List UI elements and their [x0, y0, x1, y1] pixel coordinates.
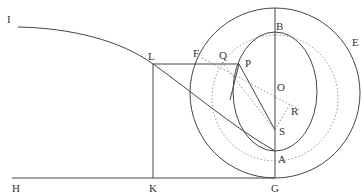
label-E: E — [352, 37, 359, 48]
curve-IA — [18, 27, 275, 151]
line-PS — [239, 64, 275, 130]
diagram-canvas — [0, 0, 364, 196]
label-R: R — [291, 106, 298, 117]
label-I: I — [7, 14, 11, 25]
label-L: L — [148, 51, 155, 62]
label-K: K — [149, 183, 157, 194]
label-F: F — [193, 48, 199, 59]
label-P: P — [245, 58, 251, 69]
label-Q: Q — [219, 50, 227, 61]
label-O: O — [277, 82, 285, 93]
label-A: A — [278, 154, 286, 165]
geometry-diagram: I L F Q P B E O R S A H K G — [0, 0, 364, 196]
label-H: H — [12, 183, 20, 194]
line-Q-S — [222, 62, 275, 130]
label-B: B — [276, 21, 283, 32]
label-G: G — [271, 183, 279, 194]
label-S: S — [279, 126, 285, 137]
